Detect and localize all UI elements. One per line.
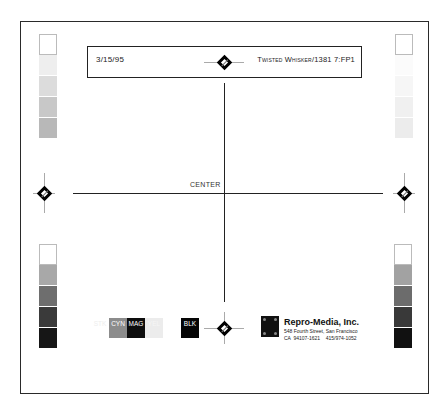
tone-patch: [39, 307, 57, 328]
company-name: Repro-Media, Inc.: [284, 317, 359, 327]
tone-patch: [39, 76, 57, 97]
job-slug: Twisted Whisker/1381 7:FP1: [257, 55, 355, 64]
color-swatch-stk: STK: [91, 318, 109, 338]
tone-patch: [39, 286, 57, 307]
tone-patch: [395, 97, 413, 118]
tone-patch: [395, 34, 413, 55]
color-swatch-yel: YEL: [145, 318, 163, 338]
center-label: CENTER: [190, 181, 221, 188]
color-swatch-bar: STKCYNMAGYELBLK: [91, 318, 199, 338]
tone-strip-top-left: [39, 34, 57, 139]
tone-patch: [394, 307, 412, 328]
tone-patch: [394, 328, 412, 349]
company-address: 548 Fourth Street, San Francisco CA 9410…: [284, 328, 358, 341]
company-address-line2: CA 94107-1621 415/974-1052: [284, 335, 358, 342]
tone-strip-bottom-right: [394, 244, 412, 349]
tone-patch: [395, 118, 413, 139]
tone-patch: [39, 244, 57, 265]
repro-media-logo-icon: [261, 316, 279, 337]
color-swatch-blk: BLK: [181, 318, 199, 338]
color-swatch-mag: MAG: [127, 318, 145, 338]
tone-patch: [395, 55, 413, 76]
tone-strip-bottom-left: [39, 244, 57, 349]
tone-patch: [39, 55, 57, 76]
tone-patch: [394, 265, 412, 286]
job-date: 3/15/95: [96, 55, 124, 64]
tone-patch: [39, 265, 57, 286]
tone-patch: [39, 328, 57, 349]
tone-patch: [39, 34, 57, 55]
tone-patch: [39, 97, 57, 118]
company-address-line1: 548 Fourth Street, San Francisco: [284, 328, 358, 335]
tone-patch: [39, 118, 57, 139]
horizontal-center-line: [73, 193, 383, 194]
tone-patch: [394, 244, 412, 265]
color-swatch-cyn: CYN: [109, 318, 127, 338]
tone-patch: [395, 76, 413, 97]
tone-strip-top-right: [395, 34, 413, 139]
tone-patch: [394, 286, 412, 307]
color-swatch-blank: [163, 318, 181, 338]
